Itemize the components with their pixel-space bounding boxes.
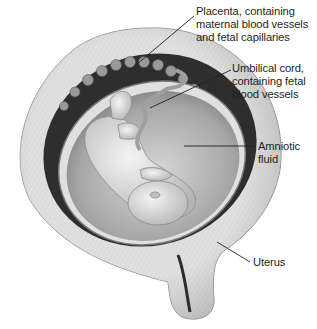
umbilical-cord-label: Umbilical cord, containing fetal blood v…: [232, 62, 306, 101]
amniotic-fluid-label: Amniotic fluid: [258, 140, 300, 166]
uterus-label: Uterus: [253, 256, 285, 269]
placenta-label: Placenta, containing maternal blood vess…: [196, 5, 308, 44]
